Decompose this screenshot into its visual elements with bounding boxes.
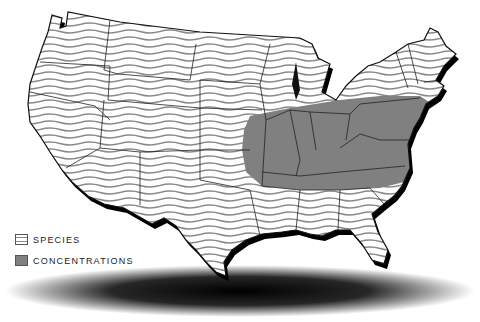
legend-label: SPECIES — [33, 235, 80, 245]
solid-swatch-icon — [15, 255, 28, 266]
legend-label: CONCENTRATIONS — [33, 256, 134, 266]
legend-item-concentrations: CONCENTRATIONS — [15, 254, 134, 267]
striped-swatch-icon — [15, 234, 28, 245]
map-legend: SPECIES CONCENTRATIONS — [15, 233, 134, 275]
legend-item-species: SPECIES — [15, 233, 134, 246]
